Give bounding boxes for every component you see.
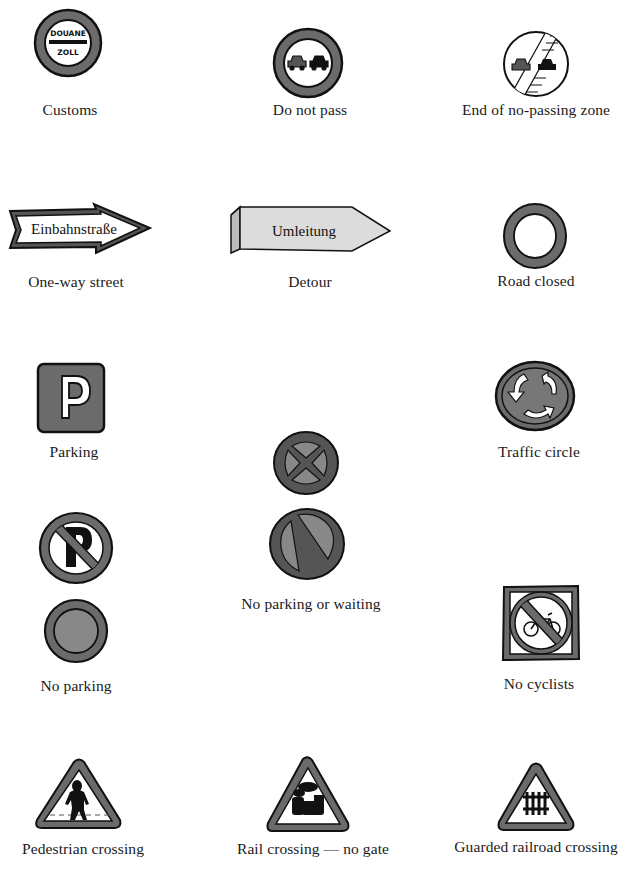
no-cyclists-sign (500, 583, 582, 663)
no-parking-slash-sign (268, 507, 346, 581)
one-way-text: Einbahnstraße (31, 221, 117, 237)
no-parking-or-waiting-label: No parking or waiting (241, 595, 380, 613)
customs-sign: DOUANE ZOLL (30, 5, 106, 81)
traffic-circle-sign (494, 360, 576, 432)
parking-label: Parking (50, 443, 99, 461)
end-no-passing-label: End of no-passing zone (462, 101, 610, 119)
one-way-street-label: One-way street (28, 273, 124, 291)
rail-crossing-no-gate-label: Rail crossing — no gate (237, 840, 389, 858)
end-no-passing-sign (500, 28, 572, 100)
no-parking-label: No parking (40, 677, 111, 695)
road-closed-sign (502, 203, 568, 269)
guarded-railroad-crossing-sign (496, 762, 576, 832)
do-not-pass-sign (270, 25, 346, 101)
no-parking-p-sign (38, 511, 114, 585)
do-not-pass-label: Do not pass (273, 101, 347, 119)
customs-label: Customs (43, 101, 98, 119)
road-closed-label: Road closed (497, 272, 574, 290)
pedestrian-crossing-label: Pedestrian crossing (22, 840, 144, 858)
customs-text-top: DOUANE (50, 29, 86, 38)
no-waiting-sign (272, 430, 340, 496)
no-parking-circle-sign (43, 598, 109, 664)
guarded-railroad-crossing-label: Guarded railroad crossing (454, 838, 617, 856)
detour-text: Umleitung (272, 223, 337, 239)
traffic-circle-label: Traffic circle (498, 443, 580, 461)
pedestrian-crossing-sign (34, 758, 124, 830)
parking-sign (36, 362, 106, 434)
rail-crossing-no-gate-sign (266, 755, 350, 833)
customs-text-bottom: ZOLL (57, 48, 79, 57)
no-cyclists-label: No cyclists (504, 675, 574, 693)
one-way-street-sign: Einbahnstraße (4, 203, 154, 255)
detour-label: Detour (288, 273, 332, 291)
detour-sign: Umleitung (230, 205, 392, 257)
